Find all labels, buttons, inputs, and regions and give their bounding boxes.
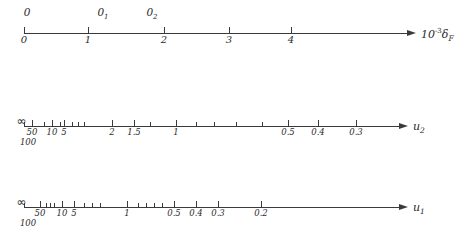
tick-label: 4 — [288, 35, 294, 45]
axis-tick — [146, 203, 147, 207]
axis-tick — [84, 203, 85, 207]
axis-tick — [24, 203, 25, 207]
tick-label: 5 — [71, 209, 76, 218]
annotation-subscript: 1 — [104, 13, 108, 21]
axis-tick — [288, 120, 289, 127]
axis-arrow-icon — [407, 30, 416, 36]
axis-tick — [154, 203, 155, 207]
axis-arrow-icon — [399, 204, 408, 210]
axis-tick — [100, 203, 101, 207]
axis-tick — [176, 120, 177, 127]
tick-label: 0 — [21, 35, 27, 45]
axis-tick — [164, 27, 165, 34]
axis-tick — [356, 120, 357, 127]
axis-tick — [88, 27, 89, 34]
tick-label: 0.4 — [311, 128, 325, 137]
tick-label: 0.3 — [349, 128, 363, 137]
axis-tick — [40, 201, 41, 208]
tick-label: 2 — [161, 35, 167, 45]
axis-tick — [218, 201, 219, 208]
tick-label: 1 — [85, 35, 91, 45]
axis-annotation: 02 — [146, 7, 157, 21]
tick-label: 0.4 — [189, 209, 203, 218]
axis-tick — [78, 122, 79, 126]
axis-annotation: 0 — [24, 7, 31, 18]
axis-tick — [44, 122, 45, 126]
tick-label: 3 — [226, 35, 232, 45]
axis-tick — [72, 122, 73, 126]
axis-tick — [236, 122, 237, 126]
axis-tick — [112, 120, 113, 127]
axis-tick — [162, 203, 163, 207]
tick-label: 0.2 — [254, 209, 268, 218]
tick-label: 1 — [173, 128, 178, 137]
axis-name-label: 10-3δF — [421, 27, 454, 43]
tick-label: 0.5 — [281, 128, 295, 137]
axis-arrow-icon — [399, 123, 408, 129]
axis-tick — [64, 120, 65, 127]
axis-tick — [52, 120, 53, 127]
axis-tick — [214, 122, 215, 126]
axis-tick — [60, 122, 61, 126]
tick-label: 0.3 — [211, 209, 225, 218]
axis-line — [24, 33, 408, 34]
axis-tick — [196, 122, 197, 126]
tick-label: 2 — [109, 128, 114, 137]
axis-tick — [127, 201, 128, 208]
axis-tick — [196, 201, 197, 208]
axis-line — [24, 126, 400, 127]
tick-label: 10 — [47, 128, 58, 137]
axis-tick — [262, 122, 263, 126]
axis-tick — [138, 203, 139, 207]
axis-tick — [92, 203, 93, 207]
tick-label: 1.5 — [127, 128, 141, 137]
tick-label: 100 — [20, 138, 36, 147]
axis-tick — [54, 203, 55, 207]
tick-label: 50 — [27, 128, 38, 137]
axis-tick — [74, 201, 75, 208]
annotation-subscript: 2 — [153, 13, 157, 21]
tick-label: 0.5 — [167, 209, 181, 218]
axis-tick — [62, 201, 63, 208]
axis-tick — [134, 120, 135, 127]
tick-label: 5 — [61, 128, 66, 137]
axis-tick — [229, 27, 230, 34]
axis-tick — [84, 122, 85, 126]
axis-tick — [24, 122, 25, 126]
axis-tick — [46, 203, 47, 207]
axis-name-label: u2 — [413, 120, 425, 135]
tick-label: 1 — [124, 209, 129, 218]
tick-label: 50 — [35, 209, 46, 218]
axis-tick — [150, 122, 151, 126]
axis-tick — [291, 27, 292, 34]
axis-tick — [24, 27, 25, 34]
tick-label: 100 — [20, 219, 36, 228]
axis-tick — [261, 201, 262, 208]
axis-annotation: 01 — [97, 7, 108, 21]
axis-name-label: u1 — [413, 201, 425, 216]
axis-tick — [50, 203, 51, 207]
nomogram-figure: 012340010210-3δF∞1005010521.510.50.40.3u… — [0, 0, 455, 249]
axis-tick — [318, 120, 319, 127]
axis-tick — [174, 201, 175, 208]
tick-label: 10 — [57, 209, 68, 218]
axis-tick — [32, 120, 33, 127]
